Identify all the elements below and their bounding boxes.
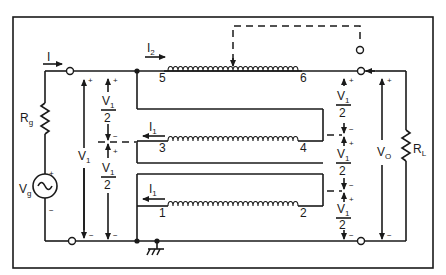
svg-text:−: − bbox=[113, 132, 118, 141]
v1-half-label-right-1: V1 2 bbox=[336, 89, 351, 120]
svg-text:V1: V1 bbox=[102, 161, 115, 177]
vg-label: Vg bbox=[19, 182, 31, 198]
svg-text:+: + bbox=[349, 76, 354, 85]
wiper-dashed-link bbox=[233, 26, 360, 61]
rl-label: RL bbox=[413, 142, 427, 158]
resistor-rg bbox=[41, 103, 49, 134]
input-terminal-top bbox=[67, 68, 74, 75]
vg-minus: − bbox=[49, 206, 54, 215]
winding-1-2 bbox=[168, 202, 298, 207]
i2-label: I2 bbox=[147, 41, 155, 57]
output-terminal-bottom bbox=[358, 238, 365, 245]
svg-text:+: + bbox=[349, 195, 354, 204]
vo-label: VO bbox=[377, 145, 391, 161]
svg-text:2: 2 bbox=[104, 111, 111, 125]
terminal-5: 5 bbox=[159, 71, 166, 85]
terminal-6: 6 bbox=[300, 71, 307, 85]
svg-text:V1: V1 bbox=[337, 202, 350, 218]
i1-mid-label: I1 bbox=[149, 120, 157, 136]
svg-text:V1: V1 bbox=[337, 89, 350, 105]
ac-sine-icon bbox=[38, 183, 52, 190]
svg-text:+: + bbox=[88, 76, 93, 85]
v1-half-label-left-top: V1 2 bbox=[101, 94, 116, 125]
terminal-3: 3 bbox=[159, 141, 166, 155]
svg-text:2: 2 bbox=[104, 178, 111, 192]
resistor-rl bbox=[402, 130, 410, 161]
svg-text:2: 2 bbox=[339, 106, 346, 120]
svg-text:−: − bbox=[113, 231, 118, 240]
diagram-border bbox=[13, 17, 433, 268]
v1-half-label-right-2: V1 2 bbox=[336, 147, 351, 178]
svg-text:+: + bbox=[387, 76, 392, 85]
svg-text:+: + bbox=[113, 76, 118, 85]
terminal-1: 1 bbox=[159, 206, 166, 220]
svg-text:−: − bbox=[387, 231, 392, 240]
svg-text:−: − bbox=[349, 231, 354, 240]
svg-text:V1: V1 bbox=[102, 94, 115, 110]
svg-text:2: 2 bbox=[339, 164, 346, 178]
current-i-label: I bbox=[47, 50, 50, 64]
rg-label: Rg bbox=[20, 111, 33, 127]
svg-text:−: − bbox=[349, 181, 354, 190]
circuit-diagram: Rg Vg + − I V1 + − + − + − V1 2 V1 2 bbox=[0, 0, 446, 275]
svg-text:−: − bbox=[349, 125, 354, 134]
svg-text:+: + bbox=[349, 139, 354, 148]
terminal-4: 4 bbox=[300, 141, 307, 155]
output-terminal-top bbox=[358, 68, 365, 75]
vg-plus: + bbox=[49, 169, 54, 178]
svg-text:V1: V1 bbox=[337, 147, 350, 163]
svg-text:+: + bbox=[113, 147, 118, 156]
wiper-terminal bbox=[357, 47, 364, 54]
i1-bot-label: I1 bbox=[149, 182, 157, 198]
v1-half-label-right-3: V1 2 bbox=[336, 202, 351, 232]
input-terminal-bottom bbox=[69, 238, 76, 245]
terminal-2: 2 bbox=[300, 206, 307, 220]
winding-3-4 bbox=[168, 137, 298, 142]
svg-text:−: − bbox=[89, 231, 94, 240]
v1-half-label-left-bottom: V1 2 bbox=[101, 161, 116, 192]
svg-text:2: 2 bbox=[339, 218, 346, 232]
